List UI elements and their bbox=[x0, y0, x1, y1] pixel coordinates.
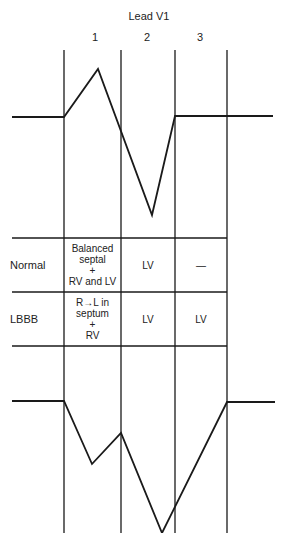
cell-line: RV bbox=[86, 330, 100, 341]
lbbb-cell-2: LV bbox=[121, 292, 175, 346]
row-label-normal: Normal bbox=[10, 238, 45, 292]
cell-line: RV and LV bbox=[69, 276, 116, 287]
cell-line: septal bbox=[79, 254, 106, 265]
cell-line: + bbox=[90, 265, 96, 276]
normal-cell-3: — bbox=[175, 238, 227, 292]
cell-line: septum bbox=[76, 308, 109, 319]
cell-line: LV bbox=[195, 314, 207, 325]
normal-waveform bbox=[12, 69, 273, 215]
diagram-title: Lead V1 bbox=[104, 11, 194, 22]
lbbb-cell-3: LV bbox=[175, 292, 227, 346]
normal-cell-2: LV bbox=[121, 238, 175, 292]
row-label-lbbb: LBBB bbox=[10, 292, 38, 346]
cell-line: + bbox=[90, 319, 96, 330]
column-2-label: 2 bbox=[137, 32, 157, 43]
cell-line: LV bbox=[142, 314, 154, 325]
normal-cell-1: Balanced septal + RV and LV bbox=[64, 238, 121, 292]
column-3-label: 3 bbox=[190, 32, 210, 43]
lbbb-waveform bbox=[12, 401, 275, 533]
cell-line: — bbox=[196, 260, 206, 271]
cell-line: Balanced bbox=[72, 243, 114, 254]
cell-line: R→L in bbox=[76, 297, 109, 308]
cell-line: LV bbox=[142, 260, 154, 271]
lbbb-cell-1: R→L in septum + RV bbox=[64, 292, 121, 346]
column-1-label: 1 bbox=[85, 32, 105, 43]
